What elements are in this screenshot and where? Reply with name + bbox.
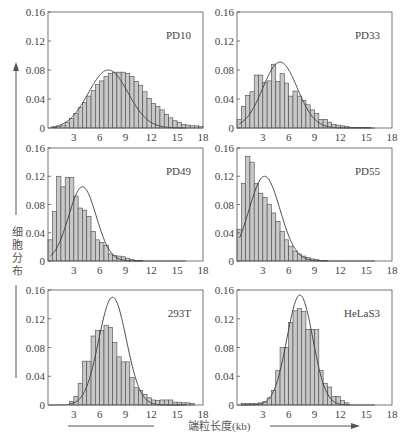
histogram-panel-pd10: 00.040.080.120.16369121518PD10 [26,6,209,143]
histogram-bar [78,208,82,261]
histogram-bar [271,64,275,128]
panel-title: HeLaS3 [344,307,381,319]
histogram-bar [284,240,288,261]
histogram-bar [130,378,134,405]
y-tick-label: 0 [229,399,235,411]
histogram-bar [276,371,280,406]
histogram-bar [70,178,74,261]
histogram-bar [138,391,142,405]
y-tick-label: 0.04 [215,370,235,382]
y-tick-label: 0.04 [26,370,46,382]
histogram-bar [104,77,108,128]
histogram-bar [113,342,117,405]
histogram-bar [61,125,65,128]
panel-title: 293T [168,307,192,319]
y-tick-label: 0.16 [26,142,46,154]
histogram-bar [117,357,121,405]
histogram-bar [302,312,306,405]
histogram-bar [276,82,280,128]
histogram-bar [74,114,78,129]
histogram-bar [126,362,130,405]
x-axis-label: 端粒长度(kb) [188,417,250,433]
histogram-panel-293t: 00.040.080.120.16369121518293T [26,284,209,420]
y-axis-label: 细胞分布 [10,226,24,278]
histogram-bar [306,330,310,405]
histogram-bar [87,361,91,405]
y-tick-label: 0.16 [26,284,46,296]
y-tick-label: 0.16 [26,6,46,18]
histogram-bar [61,187,65,261]
histogram-bar [259,75,263,128]
y-tick-label: 0.08 [215,342,235,354]
y-tick-label: 0.12 [26,170,45,182]
x-tick-label: 18 [198,264,210,276]
histogram-bar [177,122,181,128]
y-tick-label: 0.04 [215,227,235,239]
histogram-bar [267,81,271,128]
y-axis-label-group: 细胞分布 [6,60,26,380]
x-tick-label: 12 [146,264,157,276]
histogram-bar [95,85,99,129]
histogram-bar [280,231,284,261]
histogram-bars [52,72,203,128]
x-tick-label: 18 [387,131,399,143]
histogram-bar [173,121,177,128]
x-tick-label: 6 [97,264,103,276]
histogram-bar [65,122,69,128]
x-tick-label: 18 [387,264,399,276]
y-tick-label: 0.16 [215,142,235,154]
histogram-bar [100,330,104,405]
histogram-bar [82,210,86,261]
x-tick-label: 15 [172,264,184,276]
histogram-bar [280,74,284,128]
y-tick-label: 0.12 [215,313,234,325]
x-tick-label: 9 [123,264,129,276]
y-tick-label: 0 [229,122,235,134]
x-tick-label: 9 [312,264,318,276]
histogram-bar [297,96,301,128]
histogram-bar [134,388,138,405]
histogram-bar [323,383,327,405]
histogram-bar [289,96,293,128]
y-tick-label: 0.04 [215,93,235,105]
histogram-bar [143,92,147,128]
x-tick-label: 12 [335,264,346,276]
histogram-panel-helas3: 00.040.080.120.16369121518HeLaS3 [215,284,398,420]
histogram-bar [271,391,275,405]
x-tick-label: 18 [198,131,210,143]
y-axis-arrow [6,60,26,380]
figure: 00.040.080.120.16369121518PD1000.040.080… [0,0,404,440]
histogram-bar [267,205,271,262]
panel-title: PD55 [355,165,381,177]
histogram-bar [126,74,130,128]
histogram-bar [121,362,125,405]
histogram-bar [78,383,82,405]
histogram-bar [169,118,173,128]
histogram-bar [271,213,275,261]
histogram-bar [87,96,91,128]
y-tick-label: 0 [40,399,46,411]
histogram-bar [113,72,117,128]
histogram-bar [100,243,104,261]
histogram-bar [147,98,151,128]
histogram-bars [237,64,370,128]
histogram-bar [241,106,245,128]
histogram-bar [327,387,331,405]
histogram-bar [95,240,99,261]
histogram-panel-pd33: 00.040.080.120.16369121518PD33 [215,6,398,143]
histogram-bar [289,322,293,405]
histogram-bar [57,176,61,261]
histogram-bar [48,240,52,261]
histogram-bar [263,82,267,128]
histogram-bar [160,110,164,128]
histogram-bar [297,254,301,261]
x-axis-label-group: 端粒长度(kb) [0,417,404,437]
histogram-bars [241,309,349,405]
y-tick-label: 0.08 [26,342,46,354]
y-tick-label: 0.08 [215,64,235,76]
x-tick-label: 12 [146,131,157,143]
x-tick-label: 9 [312,131,318,143]
histogram-bar [70,119,74,128]
y-tick-label: 0.12 [26,35,45,47]
y-tick-label: 0 [229,255,235,267]
